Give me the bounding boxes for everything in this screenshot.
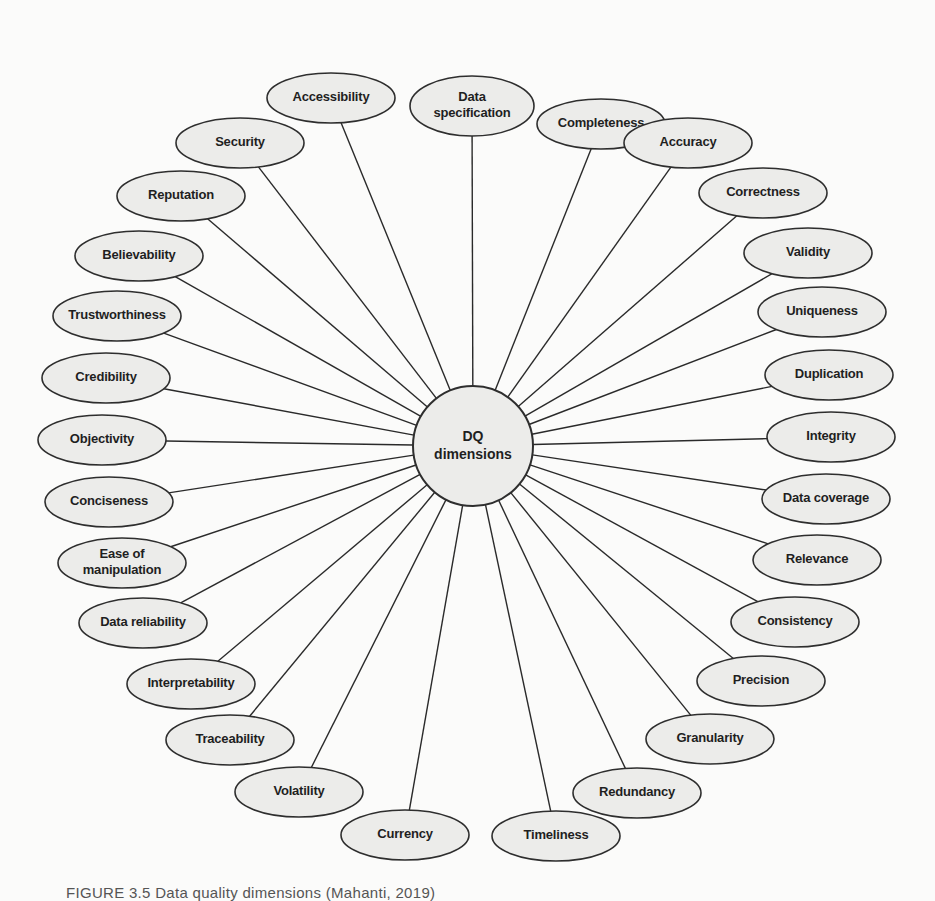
node-label: Precision	[733, 672, 790, 687]
node-label: Integrity	[806, 428, 856, 443]
node-label: Relevance	[786, 551, 849, 566]
node-validity: Validity	[744, 228, 872, 278]
node-redundancy: Redundancy	[573, 768, 701, 818]
node-trustworthiness: Trustworthiness	[53, 291, 181, 341]
node-label: Consistency	[757, 613, 833, 628]
node-label: Ease of	[100, 546, 146, 561]
spoke-line	[311, 500, 446, 768]
node-precision: Precision	[697, 656, 825, 706]
node-label: Security	[215, 134, 266, 149]
node-label: Timeliness	[524, 827, 589, 842]
spoke-line	[164, 389, 414, 435]
node-reputation: Reputation	[117, 171, 245, 221]
figure-caption: FIGURE 3.5 Data quality dimensions (Maha…	[66, 884, 435, 901]
node-duplication: Duplication	[765, 350, 893, 400]
node-uniqueness: Uniqueness	[758, 287, 886, 337]
spoke-line	[495, 149, 591, 391]
node-label: Accuracy	[660, 134, 718, 149]
spoke-line	[171, 465, 416, 547]
spoke-line	[250, 492, 435, 716]
node-label: Reputation	[148, 187, 214, 202]
node-credibility: Credibility	[42, 353, 170, 403]
node-label: Uniqueness	[786, 303, 858, 318]
node-label: Volatility	[273, 783, 325, 798]
spoke-line	[175, 277, 421, 417]
node-data-reliability: Data reliability	[79, 598, 207, 648]
node-label: Correctness	[726, 184, 800, 199]
node-correctness: Correctness	[699, 168, 827, 218]
node-label: Validity	[786, 244, 831, 259]
node-conciseness: Conciseness	[45, 477, 173, 527]
node-security: Security	[176, 118, 304, 168]
node-label: Traceability	[195, 731, 265, 746]
spoke-line	[409, 505, 462, 810]
node-ease-of-manipulation: Ease ofmanipulation	[58, 538, 186, 588]
node-label: Currency	[377, 826, 433, 841]
node-granularity: Granularity	[646, 714, 774, 764]
node-data-specification: Dataspecification	[410, 76, 534, 136]
spoke-line	[508, 167, 671, 397]
node-integrity: Integrity	[767, 412, 895, 462]
node-relevance: Relevance	[753, 535, 881, 585]
spoke-line	[532, 455, 766, 490]
node-accessibility: Accessibility	[267, 73, 395, 123]
node-label: Data coverage	[783, 490, 869, 505]
node-label: Granularity	[676, 730, 744, 745]
node-label: specification	[434, 105, 511, 120]
node-label: Duplication	[795, 366, 864, 381]
node-label: Interpretability	[147, 675, 235, 690]
node-currency: Currency	[341, 810, 469, 860]
spoke-line	[258, 167, 436, 398]
node-label: Objectivity	[70, 431, 135, 446]
node-label: DQ	[463, 428, 484, 444]
node-accuracy: Accuracy	[624, 118, 752, 168]
node-label: Completeness	[558, 115, 644, 130]
spoke-line	[208, 219, 428, 407]
node-timeliness: Timeliness	[492, 811, 620, 861]
spoke-line	[533, 439, 767, 445]
node-label: manipulation	[83, 562, 162, 577]
spoke-line	[181, 474, 420, 602]
spoke-line	[341, 123, 450, 391]
spoke-line	[511, 493, 691, 716]
spoke-line	[530, 465, 768, 544]
spoke-line	[166, 441, 413, 445]
node-objectivity: Objectivity	[38, 415, 166, 465]
node-label: Redundancy	[599, 784, 676, 799]
spoke-line	[485, 505, 550, 811]
node-believability: Believability	[75, 231, 203, 281]
node-label: Conciseness	[70, 493, 148, 508]
spoke-line	[499, 500, 626, 768]
node-consistency: Consistency	[731, 597, 859, 647]
node-data-coverage: Data coverage	[762, 474, 890, 524]
node-label: Data	[458, 89, 486, 104]
node-label: Accessibility	[293, 89, 371, 104]
node-label: Data reliability	[100, 614, 187, 629]
node-label: Believability	[102, 247, 176, 262]
node-traceability: Traceability	[166, 715, 294, 765]
node-label: dimensions	[434, 446, 512, 462]
node-label: Trustworthiness	[68, 307, 165, 322]
node-label: Credibility	[75, 369, 137, 384]
node-volatility: Volatility	[235, 767, 363, 817]
spoke-line	[518, 216, 737, 407]
spoke-line	[472, 136, 473, 386]
node-interpretability: Interpretability	[127, 659, 255, 709]
hub-node: DQdimensions	[413, 386, 533, 506]
spoke-line	[218, 485, 427, 662]
spoke-line	[526, 475, 758, 602]
spoke-line	[169, 455, 414, 493]
